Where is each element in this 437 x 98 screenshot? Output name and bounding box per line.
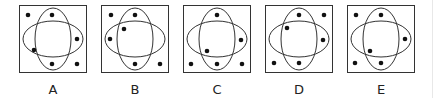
- dot: [297, 13, 302, 18]
- dot: [379, 13, 384, 18]
- option-c-figure[interactable]: [183, 5, 251, 73]
- option-e-figure[interactable]: [347, 5, 415, 73]
- option-b-figure[interactable]: [101, 5, 169, 73]
- option-label: D: [265, 82, 333, 97]
- dot: [133, 13, 138, 18]
- dot: [239, 38, 244, 43]
- dot: [189, 62, 194, 67]
- dot: [240, 62, 245, 67]
- dot: [75, 62, 80, 67]
- figure-drawing: [19, 5, 87, 73]
- option-d-figure[interactable]: [265, 5, 333, 73]
- dot: [354, 13, 359, 18]
- option-label: E: [347, 82, 415, 97]
- vertical-ellipse: [35, 8, 71, 70]
- horizontal-ellipse: [23, 21, 83, 57]
- dot: [109, 13, 114, 18]
- page-edge: [432, 0, 433, 98]
- dot: [403, 37, 408, 42]
- dot: [158, 62, 163, 67]
- horizontal-ellipse: [105, 21, 165, 57]
- figure-drawing: [265, 5, 333, 73]
- option-a-figure[interactable]: [19, 5, 87, 73]
- figure-drawing: [347, 5, 415, 73]
- dot: [368, 49, 373, 54]
- dot: [322, 13, 327, 18]
- dot: [321, 38, 326, 43]
- horizontal-ellipse: [269, 21, 329, 57]
- horizontal-ellipse: [351, 21, 411, 57]
- option-label: A: [19, 82, 87, 97]
- dot: [75, 37, 80, 42]
- dot: [285, 26, 290, 31]
- figure-drawing: [101, 5, 169, 73]
- dot: [26, 13, 31, 18]
- dot: [50, 13, 55, 18]
- figure-drawing: [183, 5, 251, 73]
- dot: [50, 62, 55, 67]
- dot: [32, 48, 37, 53]
- dot: [353, 61, 358, 66]
- dot: [205, 49, 210, 54]
- option-label: C: [183, 82, 251, 97]
- dot: [379, 61, 384, 66]
- dot: [108, 37, 113, 42]
- dot: [122, 27, 127, 32]
- option-label: B: [101, 82, 169, 97]
- dot: [297, 61, 302, 66]
- dot: [215, 62, 220, 67]
- dot: [133, 62, 138, 67]
- dot: [215, 13, 220, 18]
- horizontal-ellipse: [187, 21, 247, 57]
- dot: [272, 61, 277, 66]
